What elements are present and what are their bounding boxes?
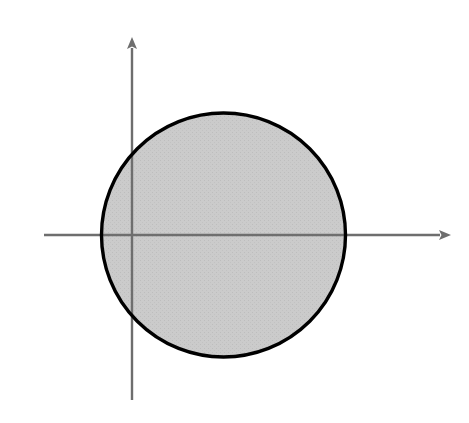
circle-eq-y [227,371,228,395]
graph-canvas [0,0,469,423]
parabola-eq-y [292,77,293,101]
circle-equation-label [208,372,239,394]
math-figure [0,0,469,423]
circle-eq-x [208,371,209,395]
parabola-eq-x [299,77,300,101]
parabola-equation-label [292,78,306,100]
shaded-region [0,0,469,423]
